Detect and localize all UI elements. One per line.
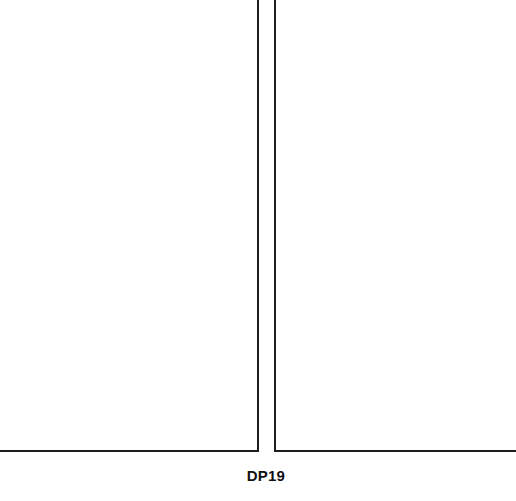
right-panel xyxy=(274,0,516,452)
figure-caption: DP19 xyxy=(0,467,516,484)
left-panel xyxy=(0,0,259,452)
